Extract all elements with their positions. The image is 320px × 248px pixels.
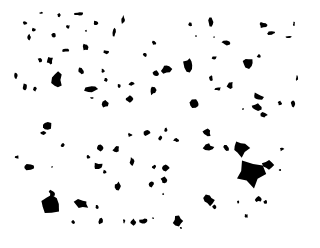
blob: [245, 214, 248, 218]
blob: [252, 103, 262, 111]
blob: [267, 31, 275, 35]
blob: [213, 36, 215, 38]
blob: [152, 41, 156, 45]
blob: [51, 71, 62, 87]
blob: [33, 87, 37, 92]
blob: [296, 75, 298, 81]
blob: [74, 199, 89, 208]
blob: [234, 141, 250, 157]
blob: [32, 28, 36, 32]
blob: [208, 17, 213, 26]
blob: [43, 122, 51, 130]
blob: [144, 130, 151, 136]
blob: [97, 144, 104, 151]
blob: [74, 12, 83, 15]
blob: [243, 59, 253, 69]
blob: [103, 170, 106, 174]
blob: [255, 196, 262, 202]
blob: [257, 54, 261, 58]
blob: [84, 86, 98, 92]
blob: [83, 44, 89, 51]
blob: [27, 34, 31, 41]
blob: [52, 33, 56, 38]
blob-pattern-image: [0, 0, 320, 248]
blob-field: [0, 0, 320, 248]
blob: [291, 101, 295, 108]
blob: [14, 73, 17, 79]
blob: [223, 145, 229, 151]
blob: [195, 35, 197, 37]
blob: [143, 53, 147, 57]
blob: [66, 25, 70, 29]
blob: [139, 218, 147, 223]
blob: [214, 87, 221, 90]
blob: [23, 84, 27, 91]
blob: [130, 157, 135, 166]
blob: [203, 143, 215, 150]
blob: [161, 66, 172, 74]
blob: [162, 193, 164, 195]
blob: [158, 136, 162, 141]
blob: [126, 95, 134, 103]
blob: [23, 21, 28, 25]
blob: [103, 50, 109, 54]
blob: [104, 78, 108, 82]
blob: [38, 58, 43, 62]
blob: [242, 108, 244, 110]
blob: [51, 166, 53, 168]
blob: [47, 57, 53, 64]
blob: [183, 58, 192, 72]
blob: [152, 165, 156, 170]
blob: [190, 99, 199, 108]
blob: [95, 163, 103, 169]
blob: [90, 97, 94, 99]
blob: [279, 169, 281, 171]
blob: [222, 41, 231, 46]
blob: [209, 75, 213, 81]
blob: [49, 190, 55, 197]
blob: [61, 143, 65, 147]
blob: [280, 148, 285, 151]
blob: [227, 82, 233, 89]
blob: [254, 93, 264, 100]
blob: [98, 218, 103, 225]
blob: [24, 164, 34, 170]
blob: [151, 87, 157, 96]
blob: [96, 205, 99, 209]
blob: [39, 12, 43, 14]
blob: [57, 13, 61, 17]
blob: [113, 28, 116, 37]
blob: [40, 131, 46, 135]
blob: [112, 146, 119, 152]
blob: [173, 138, 179, 142]
blob: [293, 22, 295, 26]
blob: [94, 21, 98, 25]
blob: [203, 128, 211, 136]
blob: [85, 30, 87, 32]
blob: [263, 200, 267, 204]
blob: [212, 205, 216, 210]
blob: [161, 177, 168, 184]
blob: [62, 49, 69, 52]
blob: [41, 195, 59, 213]
blob: [212, 56, 217, 59]
blob: [180, 227, 182, 229]
blob: [153, 70, 160, 76]
blob: [203, 194, 215, 206]
blob: [121, 15, 125, 24]
blob: [129, 82, 135, 86]
blob: [286, 36, 292, 38]
blob: [237, 201, 239, 204]
blob: [188, 22, 192, 26]
blob: [128, 133, 133, 137]
blob: [102, 100, 109, 107]
blob: [115, 182, 121, 191]
blob: [164, 128, 167, 132]
blob: [260, 112, 267, 117]
blob: [149, 182, 154, 188]
blob: [237, 161, 266, 189]
blob: [162, 164, 170, 171]
blob: [78, 68, 83, 75]
blob: [130, 218, 136, 225]
blob: [15, 156, 19, 159]
